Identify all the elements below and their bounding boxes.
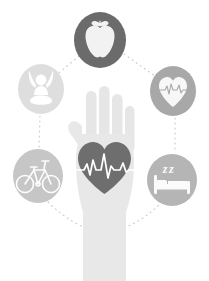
meditation-head (36, 75, 47, 86)
node-mindfulness[interactable]: Mindfulness (0, 0, 209, 281)
infographic-canvas: Healthy Lifestyle Hand Infographic An op… (0, 0, 209, 281)
